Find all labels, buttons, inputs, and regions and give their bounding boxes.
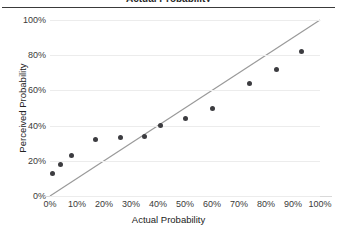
x-tick-label: 70% <box>230 199 248 209</box>
y-tick-label: 40% <box>28 121 46 130</box>
gridline-y <box>50 126 320 127</box>
gridline-y <box>50 55 320 56</box>
x-tick-label: 0% <box>43 199 56 209</box>
x-tick-label: 100% <box>308 199 331 209</box>
x-tick-label: 50% <box>176 199 194 209</box>
x-tick-label: 40% <box>149 199 167 209</box>
data-point <box>50 171 55 176</box>
x-tick-label: 10% <box>68 199 86 209</box>
title-divider <box>2 7 335 8</box>
data-point <box>210 106 215 111</box>
identity-reference-line <box>50 20 320 196</box>
data-point <box>142 134 147 139</box>
x-tick-label: 90% <box>284 199 302 209</box>
gridline-y <box>50 20 320 21</box>
x-tick-label: 60% <box>203 199 221 209</box>
data-point <box>299 49 304 54</box>
data-point <box>183 116 188 121</box>
gridline-y <box>50 90 320 91</box>
chart-title: Actual Probability <box>0 0 337 2</box>
x-axis-title: Actual Probability <box>0 214 337 225</box>
plot-area <box>50 20 320 196</box>
x-tick-label: 80% <box>257 199 275 209</box>
x-tick-label: 30% <box>122 199 140 209</box>
scatter-chart: Actual Probability Perceived Probability… <box>0 0 337 233</box>
gridline-y <box>50 161 320 162</box>
y-tick-label: 80% <box>28 51 46 60</box>
y-tick-label: 20% <box>28 156 46 165</box>
y-tick-label: 60% <box>28 86 46 95</box>
gridline-y <box>50 196 320 197</box>
y-tick-label: 100% <box>23 16 46 25</box>
x-tick-label: 20% <box>95 199 113 209</box>
x-axis-tick-labels: 0%10%20%30%40%50%60%70%80%90%100% <box>0 199 337 211</box>
